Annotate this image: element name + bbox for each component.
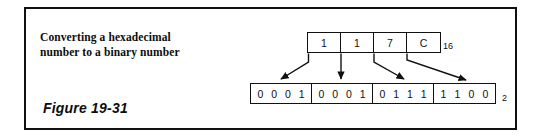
binary-base-subscript: 2 xyxy=(502,93,507,103)
hex-base-subscript: 16 xyxy=(443,41,453,51)
figure-caption: Converting a hexadecimal number to a bin… xyxy=(40,30,240,60)
hex-digit-cell: 1 xyxy=(308,33,341,52)
binary-bit: 0 xyxy=(256,88,265,100)
binary-bit: 1 xyxy=(358,88,367,100)
binary-bit: 1 xyxy=(439,88,448,100)
binary-bit: 0 xyxy=(378,88,387,100)
binary-nibble-group: 1 1 0 0 xyxy=(434,84,495,103)
binary-nibble-group: 0 0 0 1 xyxy=(251,84,312,103)
hex-digit-cell: 1 xyxy=(341,33,374,52)
binary-bit: 1 xyxy=(453,88,462,100)
binary-bit: 0 xyxy=(481,88,490,100)
figure-number-label: Figure 19-31 xyxy=(43,100,128,116)
hex-digit-row: 1 1 7 C xyxy=(307,32,441,53)
binary-bit: 1 xyxy=(392,88,401,100)
binary-digit-row: 0 0 0 1 0 0 0 1 0 1 1 1 1 1 0 0 xyxy=(250,83,496,104)
binary-bit: 1 xyxy=(405,88,414,100)
binary-nibble-group: 0 0 0 1 xyxy=(312,84,373,103)
binary-bit: 0 xyxy=(317,88,326,100)
binary-bit: 0 xyxy=(331,88,340,100)
binary-bit: 0 xyxy=(270,88,279,100)
binary-bit: 0 xyxy=(344,88,353,100)
caption-line-1: Converting a hexadecimal xyxy=(40,30,240,45)
binary-bit: 1 xyxy=(419,88,428,100)
hex-digit-cell: C xyxy=(407,33,440,52)
hex-digit-cell: 7 xyxy=(374,33,407,52)
figure-page: Converting a hexadecimal number to a bin… xyxy=(0,0,542,140)
binary-bit: 1 xyxy=(297,88,306,100)
caption-line-2: number to a binary number xyxy=(40,45,240,60)
binary-bit: 0 xyxy=(467,88,476,100)
binary-nibble-group: 0 1 1 1 xyxy=(373,84,434,103)
binary-bit: 0 xyxy=(283,88,292,100)
